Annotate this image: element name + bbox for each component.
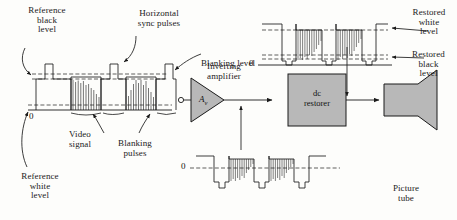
inverting-amplifier-block[interactable] <box>178 78 272 122</box>
label-zero-bottom-mid: 0 <box>181 161 186 171</box>
label-dc-restorer: dc restorer <box>288 89 346 108</box>
waveform-input-composite-video <box>28 64 176 115</box>
label-zero-input: 0 <box>29 111 34 121</box>
video-burst-b-2 <box>271 159 293 181</box>
video-trace-left <box>36 64 176 110</box>
video-burst-tr-1 <box>298 30 321 60</box>
label-restored-black-level: Restored black level <box>400 50 457 79</box>
label-inverting-amplifier: Inverting amplifier <box>196 62 252 81</box>
video-burst-b-1 <box>231 159 253 181</box>
video-burst-tr-2 <box>338 30 361 60</box>
waveform-amplified-inverted <box>190 156 340 188</box>
level-lines-topright <box>258 30 392 65</box>
label-blanking-pulses: Blanking pulses <box>105 139 165 158</box>
label-reference-white-level: Reference white level <box>5 172 75 201</box>
video-burst-2 <box>129 80 154 110</box>
label-horizontal-sync-pulses: Horizontal sync pulses <box>121 9 197 28</box>
label-amplifier-gain: Av <box>199 94 207 106</box>
figure-canvas: Reference black level Horizontal sync pu… <box>0 0 457 220</box>
video-trace-bottom <box>196 156 326 188</box>
label-zero-top-right: 0 <box>249 58 254 68</box>
label-reference-black-level: Reference black level <box>14 6 80 35</box>
amp-gain-subscript: v <box>205 99 208 106</box>
label-picture-tube: Picture tube <box>378 184 434 203</box>
label-video-signal: Video signal <box>58 130 102 149</box>
video-burst-1 <box>73 80 99 110</box>
segment-brackets-left <box>71 113 176 115</box>
waveform-dc-restored <box>258 24 392 65</box>
label-restored-white-level: Restored white level <box>402 8 456 37</box>
level-lines-left <box>28 74 172 110</box>
